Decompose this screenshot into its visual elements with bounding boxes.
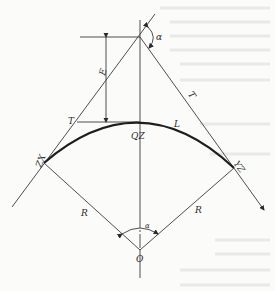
right-tangent-line [140, 37, 264, 210]
radius-left-label: R [80, 208, 88, 218]
radius-left-line [44, 163, 140, 250]
end-point-label: YZ [232, 159, 248, 175]
circular-curve-diagram: α α E T T L QZ ZX YZ R R O [0, 0, 275, 291]
tangent-left-label: T [68, 116, 75, 126]
radius-right-line [140, 168, 234, 250]
external-distance-label: E [97, 67, 109, 77]
mid-point-label: QZ [131, 131, 145, 141]
start-point-label: ZX [34, 153, 48, 170]
curve-length-label: L [173, 119, 180, 129]
radius-right-label: R [194, 205, 202, 215]
alpha-top-label: α [156, 32, 162, 42]
left-tangent-line [12, 14, 155, 207]
tangent-right-label: T [186, 90, 198, 101]
center-label: O [136, 254, 144, 264]
alpha-center-label: α [145, 222, 150, 230]
deflection-angle-arc [148, 27, 153, 48]
circular-curve-arc [44, 123, 234, 168]
